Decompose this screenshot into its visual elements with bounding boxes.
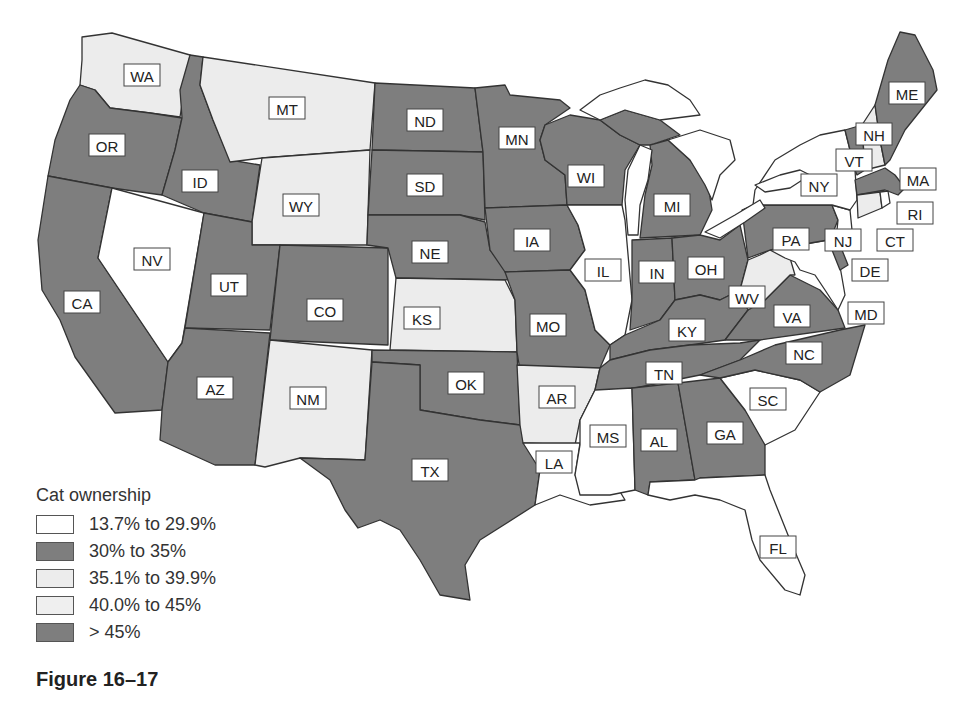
state-label-ma: MA — [900, 168, 936, 190]
state-label-ga: GA — [707, 422, 743, 444]
svg-text:OK: OK — [455, 376, 477, 393]
svg-text:WI: WI — [577, 169, 595, 186]
state-label-ct: CT — [877, 229, 913, 251]
legend-swatch — [36, 542, 74, 561]
svg-text:CT: CT — [885, 233, 905, 250]
svg-text:UT: UT — [219, 278, 239, 295]
svg-text:DE: DE — [860, 263, 881, 280]
state-label-nh: NH — [856, 123, 892, 145]
svg-text:TN: TN — [654, 366, 674, 383]
legend-label: 30% to 35% — [89, 541, 186, 562]
state-label-az: AZ — [197, 377, 233, 399]
state-label-ny: NY — [801, 174, 837, 196]
svg-text:OH: OH — [695, 261, 718, 278]
svg-text:MO: MO — [536, 318, 560, 335]
state-label-tx: TX — [412, 459, 448, 481]
svg-text:NC: NC — [793, 346, 815, 363]
legend-swatch — [36, 569, 74, 588]
svg-text:MA: MA — [907, 172, 930, 189]
svg-text:ID: ID — [193, 174, 208, 191]
state-label-wi: WI — [568, 165, 604, 187]
legend-label: 35.1% to 39.9% — [89, 568, 216, 589]
svg-text:ME: ME — [896, 86, 919, 103]
state-label-me: ME — [889, 82, 925, 104]
state-label-nm: NM — [290, 387, 326, 409]
svg-text:VA: VA — [783, 309, 802, 326]
state-label-nc: NC — [786, 342, 822, 364]
legend-swatch — [36, 623, 74, 642]
state-label-vt: VT — [836, 149, 872, 171]
legend-swatch — [36, 515, 74, 534]
svg-text:MD: MD — [854, 306, 877, 323]
state-label-de: DE — [852, 259, 888, 281]
svg-text:SC: SC — [758, 392, 779, 409]
state-label-in: IN — [639, 261, 675, 283]
svg-text:NH: NH — [863, 127, 885, 144]
state-label-mi: MI — [654, 194, 690, 216]
state-label-fl: FL — [760, 536, 796, 558]
state-label-ks: KS — [404, 307, 440, 329]
state-label-wv: WV — [729, 286, 765, 308]
state-label-pa: PA — [773, 228, 809, 250]
svg-text:WY: WY — [289, 198, 313, 215]
svg-text:MS: MS — [597, 429, 620, 446]
state-label-mt: MT — [269, 97, 305, 119]
legend-item: 35.1% to 39.9% — [36, 566, 216, 590]
state-label-nv: NV — [134, 248, 170, 270]
svg-text:VT: VT — [844, 153, 863, 170]
svg-text:AL: AL — [650, 433, 668, 450]
state-label-ri: RI — [897, 202, 933, 224]
state-label-ca: CA — [64, 291, 100, 313]
svg-text:CO: CO — [314, 303, 337, 320]
state-label-nd: ND — [407, 109, 443, 131]
legend-title: Cat ownership — [36, 485, 216, 506]
state-label-oh: OH — [688, 257, 724, 279]
state-label-ok: OK — [448, 372, 484, 394]
svg-text:NJ: NJ — [834, 233, 852, 250]
svg-text:NV: NV — [142, 252, 163, 269]
figure-caption: Figure 16–17 — [36, 668, 158, 691]
state-label-ms: MS — [590, 425, 626, 447]
legend: Cat ownership 13.7% to 29.9% 30% to 35% … — [36, 485, 216, 647]
state-label-ne: NE — [412, 241, 448, 263]
svg-text:LA: LA — [545, 455, 563, 472]
state-label-wa: WA — [124, 64, 160, 86]
svg-text:FL: FL — [769, 540, 787, 557]
svg-text:WA: WA — [130, 68, 154, 85]
legend-label: > 45% — [89, 622, 141, 643]
svg-text:OR: OR — [96, 138, 119, 155]
svg-text:KS: KS — [412, 311, 432, 328]
state-label-ut: UT — [211, 274, 247, 296]
legend-label: 13.7% to 29.9% — [89, 514, 216, 535]
svg-text:MI: MI — [664, 198, 681, 215]
state-label-tn: TN — [646, 362, 682, 384]
state-label-wy: WY — [283, 194, 319, 216]
state-label-la: LA — [536, 451, 572, 473]
legend-item: 40.0% to 45% — [36, 593, 216, 617]
state-label-md: MD — [848, 302, 884, 324]
svg-text:AZ: AZ — [205, 381, 224, 398]
state-label-mo: MO — [530, 314, 566, 336]
svg-text:RI: RI — [908, 206, 923, 223]
svg-text:IN: IN — [650, 265, 665, 282]
svg-text:TX: TX — [420, 463, 439, 480]
svg-text:NM: NM — [296, 391, 319, 408]
svg-text:SD: SD — [415, 178, 436, 195]
state-label-co: CO — [307, 299, 343, 321]
state-label-ky: KY — [669, 319, 705, 341]
legend-swatch — [36, 596, 74, 615]
svg-text:NE: NE — [420, 245, 441, 262]
svg-text:GA: GA — [714, 426, 736, 443]
svg-text:MN: MN — [505, 131, 528, 148]
state-label-ar: AR — [539, 386, 575, 408]
state-label-ia: IA — [514, 229, 550, 251]
svg-text:IL: IL — [597, 263, 610, 280]
state-label-il: IL — [585, 259, 621, 281]
svg-text:ND: ND — [414, 113, 436, 130]
state-label-nj: NJ — [825, 229, 861, 251]
svg-text:IA: IA — [525, 233, 539, 250]
state-label-sc: SC — [750, 388, 786, 410]
svg-text:MT: MT — [276, 101, 298, 118]
state-label-mn: MN — [499, 127, 535, 149]
svg-text:NY: NY — [809, 178, 830, 195]
